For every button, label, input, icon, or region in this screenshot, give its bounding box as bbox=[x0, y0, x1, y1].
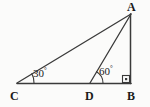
angle-value-d: 60 bbox=[99, 65, 110, 77]
angle-value-c: 30 bbox=[33, 67, 44, 79]
angle-label-d: 60° bbox=[99, 65, 113, 77]
vertex-label-b: B bbox=[127, 90, 135, 102]
degree-symbol-c: ° bbox=[44, 66, 47, 74]
degree-symbol-d: ° bbox=[110, 64, 113, 72]
vertex-label-d: D bbox=[85, 90, 94, 102]
angle-label-c: 30° bbox=[33, 67, 47, 79]
vertex-label-a: A bbox=[127, 1, 136, 13]
right-angle-dot-icon bbox=[125, 78, 127, 80]
vertex-label-c: C bbox=[10, 90, 19, 102]
geometry-figure: A B C D 30° 60° bbox=[0, 0, 150, 107]
